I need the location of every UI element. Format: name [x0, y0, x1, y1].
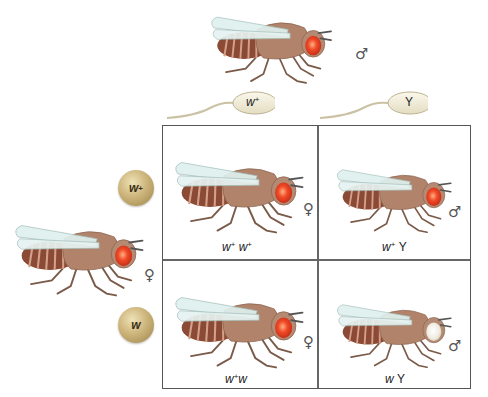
offspring-fly-w-plus-y: [330, 163, 465, 239]
female-parent-fly: [8, 218, 158, 303]
egg-w: w: [118, 307, 154, 343]
genotype-label: w+w: [225, 372, 247, 386]
grid-divider-horizontal: [163, 259, 470, 261]
genotype-label: w Y: [385, 372, 405, 386]
offspring-fly-w-y: [330, 298, 465, 374]
sperm-label-y: Y: [405, 95, 413, 109]
white-eye: [426, 322, 441, 341]
offspring-fly-w-plus-w-plus: [168, 155, 318, 240]
genotype-label: w+ w+: [222, 240, 252, 254]
sperm-label-w-plus: w+: [246, 95, 259, 109]
egg-w-plus: w+: [118, 170, 154, 206]
female-symbol: ♀: [303, 200, 314, 218]
female-symbol-parent: ♀: [144, 266, 155, 284]
genotype-label: w+ Y: [382, 240, 407, 254]
red-eye: [305, 36, 321, 56]
male-symbol: ♂: [448, 203, 461, 221]
female-symbol: ♀: [303, 333, 314, 351]
male-symbol: ♂: [448, 337, 461, 355]
male-parent-fly: [200, 10, 350, 90]
red-eye: [115, 245, 132, 266]
offspring-fly-w-plus-w: [168, 290, 318, 375]
male-symbol-parent: ♂: [355, 45, 368, 63]
